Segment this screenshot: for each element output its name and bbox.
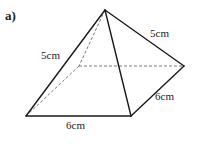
edge-apex-front-left [26,10,105,116]
label-base-front: 6cm [66,119,85,131]
hidden-edge-apex-back-left [79,10,105,66]
label-slant-left: 5cm [41,49,60,61]
hidden-edge-back-left-front-left [26,66,79,116]
pyramid-diagram: a) 5cm 5cm 6cm 6cm [0,0,199,145]
label-base-right: 6cm [155,90,174,102]
label-slant-right: 5cm [150,27,169,39]
part-label: a) [5,8,16,23]
